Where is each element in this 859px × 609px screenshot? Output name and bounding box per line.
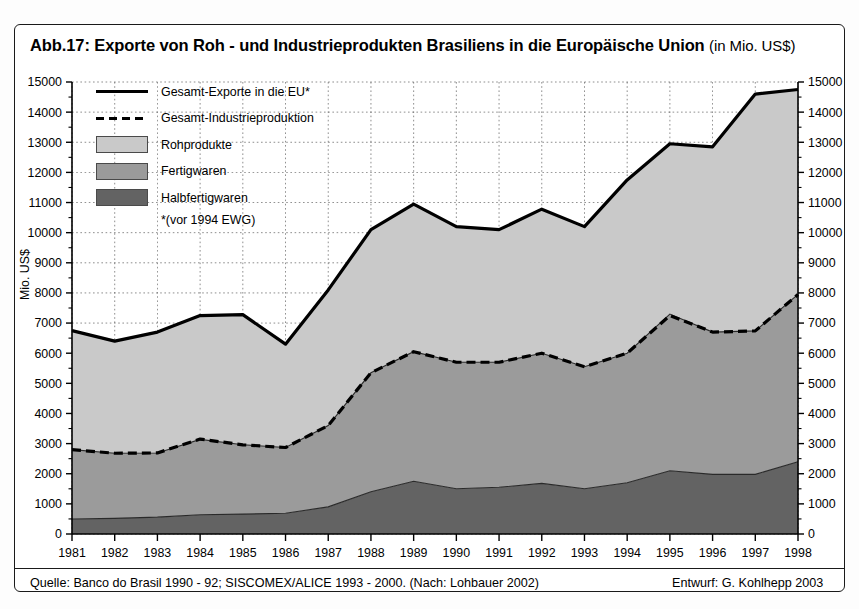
y-tick-label: 0 — [808, 527, 815, 541]
y-tick-label: 9000 — [34, 256, 62, 270]
y-tick-label: 13000 — [808, 136, 843, 150]
x-tick-label: 1997 — [742, 546, 770, 560]
y-tick-label: 4000 — [34, 407, 62, 421]
y-tick-label: 11000 — [808, 196, 842, 210]
swatch-dark-icon — [96, 189, 148, 206]
x-tick-label: 1998 — [784, 546, 812, 560]
y-tick-label: 12000 — [808, 166, 843, 180]
x-tick-label: 1983 — [144, 546, 172, 560]
y-tick-label: 8000 — [808, 286, 836, 300]
y-tick-label: 7000 — [808, 316, 836, 330]
x-tick-label: 1982 — [101, 546, 129, 560]
y-tick-label: 1000 — [34, 497, 62, 511]
y-tick-label: 2000 — [34, 467, 62, 481]
swatch-light-icon — [96, 136, 148, 153]
solid-line-icon — [96, 84, 148, 99]
x-tick-label: 1992 — [528, 546, 556, 560]
legend-item-halbfertigwaren: Halbfertigwaren — [96, 186, 314, 209]
legend-item-industrieproduktion: Gesamt-Industrieproduktion — [96, 107, 314, 130]
y-tick-label: 9000 — [808, 256, 836, 270]
x-tick-label: 1996 — [699, 546, 727, 560]
dashed-line-icon — [96, 111, 148, 126]
y-tick-label: 15000 — [808, 75, 843, 89]
legend-footnote: *(vor 1994 EWG) — [161, 213, 314, 227]
x-tick-label: 1991 — [485, 546, 513, 560]
x-tick-label: 1988 — [357, 546, 385, 560]
x-tick-label: 1993 — [571, 546, 599, 560]
y-axis-label: Mio. US$ — [18, 249, 32, 300]
x-tick-label: 1981 — [58, 546, 86, 560]
y-tick-label: 13000 — [28, 136, 63, 150]
credit-note: Entwurf: G. Kohlhepp 2003 — [672, 576, 823, 590]
x-tick-label: 1986 — [272, 546, 300, 560]
y-tick-label: 0 — [55, 527, 62, 541]
x-tick-label: 1984 — [186, 546, 214, 560]
x-tick-label: 1987 — [314, 546, 342, 560]
y-tick-label: 3000 — [808, 437, 836, 451]
legend-label: Gesamt-Exporte in die EU* — [161, 85, 310, 99]
x-tick-label: 1995 — [656, 546, 684, 560]
x-tick-label: 1990 — [443, 546, 471, 560]
swatch-medium-icon — [96, 163, 148, 180]
x-tick-label: 1989 — [400, 546, 428, 560]
legend-item-rohprodukte: Rohprodukte — [96, 133, 314, 156]
legend-label: Rohprodukte — [161, 138, 232, 152]
y-tick-label: 7000 — [34, 316, 62, 330]
y-tick-label: 14000 — [28, 106, 63, 120]
source-note: Quelle: Banco do Brasil 1990 - 92; SISCO… — [30, 576, 539, 590]
chart-legend: Gesamt-Exporte in die EU* Gesamt-Industr… — [96, 80, 314, 227]
y-tick-label: 15000 — [28, 75, 63, 89]
y-tick-label: 3000 — [34, 437, 62, 451]
y-tick-label: 6000 — [808, 347, 836, 361]
x-tick-label: 1985 — [229, 546, 257, 560]
x-tick-label: 1994 — [613, 546, 641, 560]
y-tick-label: 1000 — [808, 497, 836, 511]
legend-label: Gesamt-Industrieproduktion — [161, 111, 314, 125]
y-tick-label: 14000 — [808, 106, 843, 120]
legend-label: Fertigwaren — [161, 164, 226, 178]
y-tick-label: 5000 — [808, 377, 836, 391]
legend-label: Halbfertigwaren — [161, 191, 248, 205]
y-tick-label: 4000 — [808, 407, 836, 421]
y-tick-label: 10000 — [28, 226, 63, 240]
y-tick-label: 12000 — [28, 166, 63, 180]
y-tick-label: 2000 — [808, 467, 836, 481]
legend-item-fertigwaren: Fertigwaren — [96, 160, 314, 183]
y-tick-label: 6000 — [34, 347, 62, 361]
footer-divider — [14, 568, 845, 569]
y-tick-label: 8000 — [34, 286, 62, 300]
y-tick-label: 11000 — [28, 196, 62, 210]
figure-page: Abb.17: Exporte von Roh - und Industriep… — [0, 0, 859, 609]
y-tick-label: 5000 — [34, 377, 62, 391]
legend-item-gesamt-exporte: Gesamt-Exporte in die EU* — [96, 80, 314, 103]
y-tick-label: 10000 — [808, 226, 843, 240]
